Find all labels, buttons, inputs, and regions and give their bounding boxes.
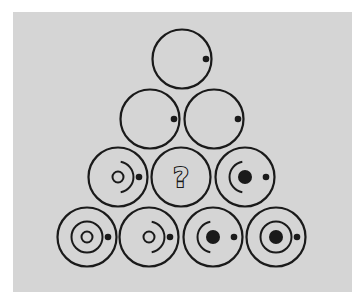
puzzle-tile <box>89 148 148 207</box>
outer-ring-icon <box>185 90 244 149</box>
small-dot-icon <box>167 234 174 241</box>
center-dot-icon <box>206 230 220 244</box>
puzzle-tile <box>153 30 212 89</box>
puzzle-tile <box>247 208 306 267</box>
puzzle-tile <box>58 208 117 267</box>
puzzle-pyramid: ? <box>0 0 364 307</box>
small-dot-icon <box>136 174 143 181</box>
small-dot-icon <box>235 116 242 123</box>
small-dot-icon <box>263 174 270 181</box>
question-mark-icon: ? <box>173 162 189 193</box>
puzzle-tile <box>184 208 243 267</box>
outer-ring-icon <box>121 90 180 149</box>
center-dot-icon <box>238 170 252 184</box>
middle-ring-icon <box>72 222 103 253</box>
center-ring-icon <box>82 232 93 243</box>
outer-ring-icon <box>153 30 212 89</box>
small-dot-icon <box>171 116 178 123</box>
missing-tile: ? <box>152 148 211 207</box>
puzzle-tile <box>120 208 179 267</box>
small-dot-icon <box>294 234 301 241</box>
small-dot-icon <box>105 234 112 241</box>
puzzle-tile <box>121 90 180 149</box>
center-ring-icon <box>113 172 124 183</box>
center-dot-icon <box>269 230 283 244</box>
puzzle-tile <box>216 148 275 207</box>
small-dot-icon <box>231 234 238 241</box>
puzzle-tile <box>185 90 244 149</box>
small-dot-icon <box>203 56 210 63</box>
center-ring-icon <box>144 232 155 243</box>
